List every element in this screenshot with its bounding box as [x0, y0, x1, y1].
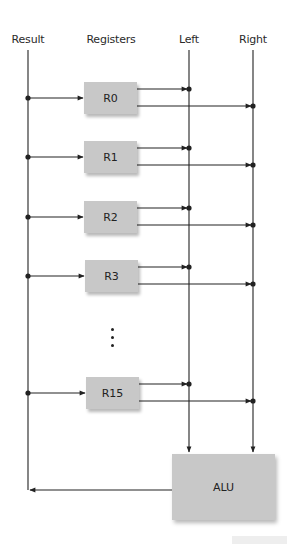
register-r0: R0 [84, 82, 137, 114]
result-junction-dot [25, 273, 30, 278]
right-junction-dot [250, 281, 255, 286]
left-bus-label: Left [179, 33, 199, 46]
ellipsis-dot [111, 344, 114, 347]
right-junction-dot [250, 222, 255, 227]
watermark [232, 536, 287, 544]
right-bus-label: Right [239, 33, 267, 46]
result-bus-label: Result [12, 33, 45, 46]
alu-box: ALU [172, 454, 275, 520]
result-junction-dot [25, 214, 30, 219]
register-r15: R15 [86, 377, 139, 409]
right-junction-dot [250, 103, 255, 108]
right-junction-dot [250, 162, 255, 167]
left-junction-dot [186, 264, 191, 269]
ellipsis-dot [111, 328, 114, 331]
register-r3: R3 [85, 260, 138, 292]
result-junction-dot [25, 95, 30, 100]
registers-label: Registers [86, 33, 135, 46]
result-junction-dot [25, 154, 30, 159]
register-r1: R1 [84, 141, 137, 173]
register-r2: R2 [84, 201, 137, 233]
ellipsis-dot [111, 336, 114, 339]
result-junction-dot [25, 390, 30, 395]
left-junction-dot [186, 86, 191, 91]
left-junction-dot [186, 145, 191, 150]
left-junction-dot [186, 381, 191, 386]
right-junction-dot [250, 398, 255, 403]
left-junction-dot [186, 205, 191, 210]
